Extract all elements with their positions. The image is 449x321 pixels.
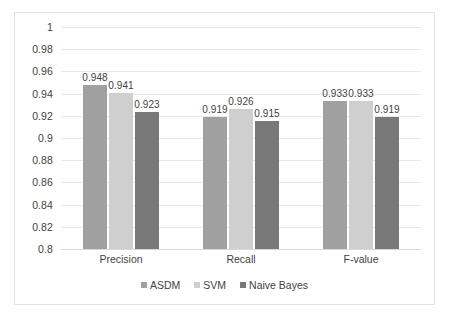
bar-value-label: 0.926: [228, 96, 254, 107]
y-tick-label: 0.98: [32, 43, 53, 55]
bar-value-label: 0.933: [322, 88, 348, 99]
bar[interactable]: [229, 109, 253, 249]
bar[interactable]: [109, 93, 133, 250]
category-label: Recall: [226, 253, 255, 265]
legend-item[interactable]: ASDM: [141, 279, 180, 291]
bar-value-label: 0.919: [374, 104, 400, 115]
y-tick-label: 1: [47, 21, 53, 33]
legend-label: SVM: [203, 279, 226, 291]
bar-value-label: 0.919: [202, 104, 228, 115]
bar[interactable]: [83, 85, 107, 249]
bar[interactable]: [323, 101, 347, 249]
bar[interactable]: [203, 117, 227, 249]
y-tick-label: 0.88: [32, 154, 53, 166]
bar-item[interactable]: 0.941: [109, 27, 133, 249]
legend-swatch-icon: [240, 282, 246, 288]
legend-item[interactable]: Naive Bayes: [240, 279, 308, 291]
x-axis: PrecisionRecallF-value: [61, 253, 421, 269]
y-tick-label: 0.8: [38, 243, 53, 255]
bar-item[interactable]: 0.919: [375, 27, 399, 249]
y-tick-label: 0.96: [32, 65, 53, 77]
bar-value-label: 0.933: [348, 88, 374, 99]
bar-item[interactable]: 0.948: [83, 27, 107, 249]
bar-group: 0.9480.9410.923: [61, 27, 181, 249]
legend-label: ASDM: [150, 279, 180, 291]
y-tick-label: 0.94: [32, 88, 53, 100]
category-label: Precision: [99, 253, 142, 265]
bar-item[interactable]: 0.926: [229, 27, 253, 249]
bar-value-label: 0.948: [82, 72, 108, 83]
bar-value-label: 0.915: [254, 108, 280, 119]
legend-label: Naive Bayes: [249, 279, 308, 291]
y-axis: 0.80.820.840.860.880.90.920.940.960.981: [15, 27, 57, 249]
bar[interactable]: [135, 112, 159, 249]
chart-legend: ASDMSVMNaive Bayes: [15, 279, 434, 291]
bar-item[interactable]: 0.933: [323, 27, 347, 249]
bars-layer: 0.9480.9410.9230.9190.9260.9150.9330.933…: [61, 27, 421, 249]
y-tick-label: 0.9: [38, 132, 53, 144]
gridline: [61, 249, 421, 250]
y-tick-label: 0.86: [32, 176, 53, 188]
bar[interactable]: [255, 121, 279, 249]
bar-item[interactable]: 0.915: [255, 27, 279, 249]
chart-frame: 0.80.820.840.860.880.90.920.940.960.981 …: [14, 12, 435, 305]
legend-item[interactable]: SVM: [194, 279, 226, 291]
bar-group: 0.9190.9260.915: [181, 27, 301, 249]
bar-item[interactable]: 0.919: [203, 27, 227, 249]
category-label: F-value: [343, 253, 378, 265]
y-tick-label: 0.84: [32, 199, 53, 211]
bar-item[interactable]: 0.923: [135, 27, 159, 249]
bar-value-label: 0.923: [134, 99, 160, 110]
bar-group: 0.9330.9330.919: [301, 27, 421, 249]
y-tick-label: 0.82: [32, 221, 53, 233]
bar-value-label: 0.941: [108, 80, 134, 91]
y-tick-label: 0.92: [32, 110, 53, 122]
bar[interactable]: [375, 117, 399, 249]
bar[interactable]: [349, 101, 373, 249]
legend-swatch-icon: [194, 282, 200, 288]
legend-swatch-icon: [141, 282, 147, 288]
bar-item[interactable]: 0.933: [349, 27, 373, 249]
